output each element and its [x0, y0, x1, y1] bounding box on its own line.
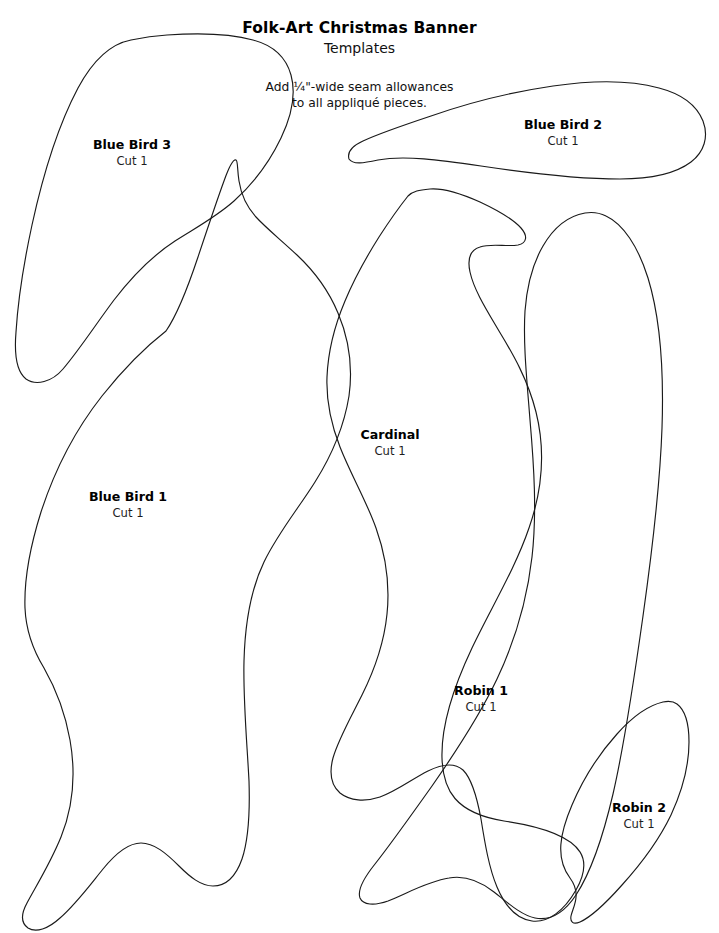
shape-blue-bird-1 [23, 160, 351, 930]
shape-blue-bird-3 [15, 34, 293, 383]
shape-cardinal [327, 189, 584, 921]
shape-blue-bird-2 [349, 82, 706, 179]
shape-robin-1 [359, 212, 662, 918]
template-page: Folk-Art Christmas Banner Templates Add … [0, 0, 719, 933]
template-shapes-canvas [0, 0, 719, 933]
